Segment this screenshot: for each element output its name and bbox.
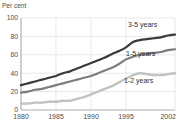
series-label-1-2-years: 1-2 years	[124, 77, 154, 85]
x-axis-tick-labels: 19801985199019952002	[13, 113, 176, 120]
x-tick-label: 1990	[83, 113, 99, 120]
y-axis-tick-labels: 020406080100	[7, 14, 19, 113]
line-chart-svg: 020406080100 19801985199019952002 3-5 ye…	[0, 0, 177, 126]
y-tick-label: 40	[10, 70, 18, 77]
x-tick-label: 1995	[118, 113, 134, 120]
y-tick-label: 60	[10, 51, 18, 58]
y-tick-label: 80	[10, 33, 18, 40]
y-tick-label: 100	[7, 14, 19, 21]
y-tick-label: 20	[10, 88, 18, 95]
series-label-1-5-years: 1-5 years	[126, 50, 156, 58]
chart-container: Per cent 020406080100 198019851990199520…	[0, 0, 177, 126]
x-tick-label: 1985	[48, 113, 64, 120]
x-tick-label: 1980	[13, 113, 29, 120]
gridlines	[21, 18, 175, 110]
data-series-group	[21, 35, 175, 104]
series-label-3-5-years: 3-5 years	[128, 21, 158, 29]
x-tick-label: 2002	[160, 113, 176, 120]
axis-lines	[21, 18, 175, 110]
